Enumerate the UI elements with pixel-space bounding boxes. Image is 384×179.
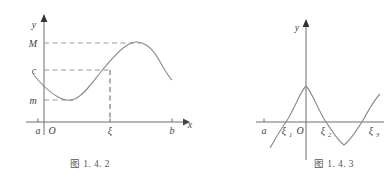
figure-1-4-3-caption: 图 1. 4. 3 (240, 156, 384, 170)
oscillating-function-curve (270, 86, 380, 148)
x-tick-label-xi2: ξ 2 (321, 125, 332, 138)
y-tick-label-m: m (29, 95, 36, 106)
x-tick-label-a: a (262, 125, 267, 136)
x-tick-label-xi1-subscript: 1 (289, 131, 292, 138)
y-axis-label: y (31, 19, 37, 30)
figure-1-4-2-graph: y x M c m a O ξ b (0, 0, 196, 179)
figure-1-4-2: y x M c m a O ξ b 图 1. 4. 2 (0, 0, 196, 179)
figure-1-4-2-caption: 图 1. 4. 2 (0, 156, 188, 170)
svg-text:ξ: ξ (369, 125, 374, 137)
y-axis-label: y (294, 22, 300, 33)
figure-1-4-3: y a ξ 1 O ξ 2 ξ 3 图 1. 4. 3 (196, 0, 384, 179)
continuous-function-curve (33, 42, 172, 100)
x-axis-label: x (187, 119, 193, 130)
svg-text:ξ: ξ (282, 125, 287, 137)
figure-sheet: y x M c m a O ξ b 图 1. 4. 2 y a (0, 0, 384, 179)
y-tick-label-c: c (32, 65, 37, 76)
y-axis-arrow (303, 19, 310, 27)
origin-label: O (48, 125, 55, 136)
svg-text:ξ: ξ (321, 125, 326, 137)
y-axis-arrow (41, 14, 48, 22)
figure-1-4-3-graph: y a ξ 1 O ξ 2 ξ 3 (196, 0, 384, 179)
x-tick-label-a: a (36, 125, 41, 136)
x-tick-label-b: b (170, 125, 175, 136)
origin-label: O (296, 125, 303, 136)
y-tick-label-M: M (28, 38, 38, 49)
x-tick-label-xi2-subscript: 2 (328, 131, 332, 138)
x-tick-label-xi: ξ (108, 125, 113, 137)
x-tick-label-xi3-subscript: 3 (375, 131, 380, 138)
x-tick-label-xi3: ξ 3 (369, 125, 380, 138)
x-tick-label-xi1: ξ 1 (282, 125, 292, 138)
